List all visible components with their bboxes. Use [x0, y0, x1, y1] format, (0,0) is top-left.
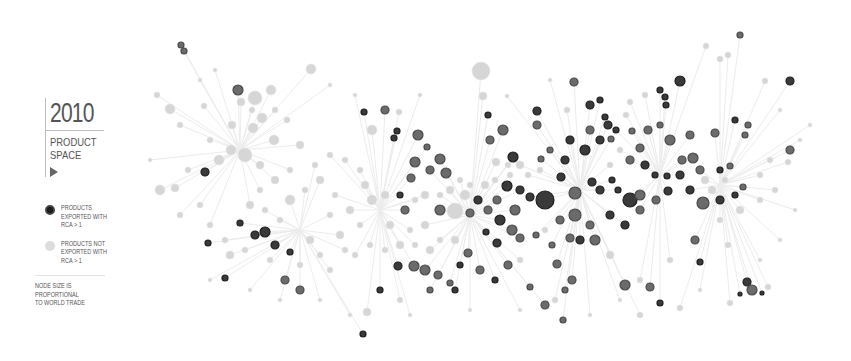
product-node-not-exported[interactable] [177, 212, 183, 218]
product-node-not-exported[interactable] [447, 203, 463, 219]
product-node-exported[interactable] [602, 114, 608, 120]
product-node-exported[interactable] [504, 261, 512, 269]
product-node-not-exported[interactable] [525, 172, 531, 178]
product-node-exported[interactable] [737, 32, 743, 38]
product-node-not-exported[interactable] [198, 78, 202, 82]
product-node-exported[interactable] [201, 168, 209, 176]
product-node-not-exported[interactable] [357, 222, 363, 228]
product-node-not-exported[interactable] [758, 258, 762, 262]
product-node-exported[interactable] [533, 121, 541, 129]
product-node-not-exported[interactable] [793, 208, 797, 212]
product-node-not-exported[interactable] [421, 191, 429, 199]
product-node-exported[interactable] [596, 186, 604, 194]
product-node-not-exported[interactable] [765, 284, 771, 290]
product-node-exported[interactable] [181, 48, 187, 54]
product-node-not-exported[interactable] [407, 227, 413, 233]
product-space-network[interactable] [0, 0, 851, 361]
product-node-not-exported[interactable] [382, 247, 388, 253]
product-node-not-exported[interactable] [481, 181, 489, 189]
product-node-not-exported[interactable] [757, 172, 763, 178]
product-node-exported[interactable] [652, 196, 660, 204]
product-node-exported[interactable] [742, 132, 748, 138]
product-node-exported[interactable] [697, 197, 709, 209]
product-node-exported[interactable] [553, 260, 561, 268]
product-node-exported[interactable] [474, 196, 482, 204]
product-node-exported[interactable] [717, 167, 723, 173]
product-node-exported[interactable] [476, 266, 484, 274]
product-node-not-exported[interactable] [357, 167, 363, 173]
product-node-not-exported[interactable] [437, 192, 443, 198]
product-node-exported[interactable] [588, 178, 596, 186]
product-node-exported[interactable] [178, 42, 184, 48]
product-node-not-exported[interactable] [257, 113, 267, 123]
product-node-exported[interactable] [570, 78, 578, 86]
product-node-exported[interactable] [557, 173, 565, 181]
product-node-not-exported[interactable] [446, 186, 454, 194]
product-node-exported[interactable] [566, 136, 574, 144]
product-node-exported[interactable] [495, 215, 505, 225]
product-node-not-exported[interactable] [242, 247, 248, 253]
product-node-not-exported[interactable] [226, 251, 234, 259]
product-node-exported[interactable] [636, 144, 644, 152]
product-node-exported[interactable] [447, 280, 453, 286]
product-node-not-exported[interactable] [606, 251, 614, 259]
product-node-exported[interactable] [686, 186, 694, 194]
product-node-exported[interactable] [609, 177, 615, 183]
product-node-not-exported[interactable] [472, 62, 490, 80]
product-node-exported[interactable] [652, 172, 658, 178]
product-node-exported[interactable] [657, 122, 663, 128]
product-node-exported[interactable] [427, 287, 433, 293]
product-node-not-exported[interactable] [548, 78, 552, 82]
product-node-not-exported[interactable] [185, 167, 191, 173]
product-node-exported[interactable] [533, 107, 541, 115]
product-node-exported[interactable] [397, 192, 403, 198]
product-node-exported[interactable] [569, 209, 581, 221]
product-node-exported[interactable] [560, 317, 566, 323]
product-node-not-exported[interactable] [518, 308, 522, 312]
product-node-not-exported[interactable] [467, 182, 473, 188]
product-node-not-exported[interactable] [725, 52, 731, 58]
product-node-not-exported[interactable] [607, 162, 613, 168]
product-node-exported[interactable] [604, 121, 612, 129]
product-node-not-exported[interactable] [725, 242, 731, 248]
product-node-exported[interactable] [281, 276, 289, 284]
product-node-exported[interactable] [260, 227, 270, 237]
product-node-exported[interactable] [394, 262, 402, 270]
product-node-not-exported[interactable] [667, 257, 673, 263]
product-node-exported[interactable] [568, 276, 576, 284]
product-node-not-exported[interactable] [361, 181, 369, 189]
product-node-not-exported[interactable] [426, 246, 434, 254]
product-node-not-exported[interactable] [246, 201, 254, 209]
product-node-exported[interactable] [657, 300, 663, 306]
product-node-exported[interactable] [663, 102, 669, 108]
product-node-exported[interactable] [561, 156, 569, 164]
product-node-exported[interactable] [740, 184, 746, 190]
product-node-not-exported[interactable] [618, 298, 622, 302]
product-node-not-exported[interactable] [717, 56, 723, 62]
product-node-exported[interactable] [615, 187, 621, 193]
product-node-not-exported[interactable] [318, 298, 322, 302]
product-node-exported[interactable] [629, 128, 635, 134]
product-node-exported[interactable] [697, 259, 703, 265]
product-node-not-exported[interactable] [226, 145, 236, 155]
product-node-exported[interactable] [441, 168, 451, 178]
product-node-not-exported[interactable] [492, 177, 498, 183]
product-node-exported[interactable] [407, 174, 415, 182]
product-node-exported[interactable] [251, 231, 259, 239]
product-node-exported[interactable] [621, 221, 629, 229]
product-node-not-exported[interactable] [214, 155, 224, 165]
product-node-exported[interactable] [641, 161, 649, 169]
product-node-not-exported[interactable] [703, 43, 709, 49]
product-node-exported[interactable] [493, 239, 501, 247]
product-node-not-exported[interactable] [332, 192, 338, 198]
product-node-exported[interactable] [738, 292, 742, 296]
product-node-not-exported[interactable] [677, 305, 683, 311]
product-node-not-exported[interactable] [421, 221, 429, 229]
product-node-exported[interactable] [413, 130, 423, 140]
product-node-exported[interactable] [556, 216, 564, 224]
product-node-exported[interactable] [508, 152, 518, 162]
product-node-not-exported[interactable] [306, 236, 314, 244]
product-node-not-exported[interactable] [492, 158, 500, 166]
product-node-not-exported[interactable] [778, 238, 782, 242]
product-node-not-exported[interactable] [177, 122, 183, 128]
